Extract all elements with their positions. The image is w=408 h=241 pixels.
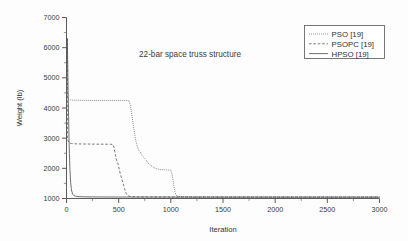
y-tick-label: 7000 [44,13,60,22]
x-tick-label: 3000 [372,205,388,214]
y-tick-label: 1000 [44,194,60,203]
x-axis-title: Iteration [209,225,236,234]
x-tick-label: 1500 [215,205,231,214]
y-tick-label: 5000 [44,73,60,82]
data-series-group [67,39,379,198]
chart-legend: PSO [19]PSOPC [19]HPSO [19] [305,26,385,59]
x-axis-tick-labels: 050010001500200025003000 [65,205,388,214]
legend-label-hpso: HPSO [19] [332,50,369,59]
x-tick-label: 500 [113,205,125,214]
chart-figure: 050010001500200025003000 100020003000400… [0,0,408,241]
chart-title: 22-bar space truss structure [139,50,241,59]
legend-label-psopc: PSOPC [19] [332,40,374,49]
y-axis-title: Weight (lb) [15,89,24,126]
y-tick-label: 4000 [44,104,60,113]
series-line-psopc [67,39,379,198]
y-tick-label: 2000 [44,164,60,173]
x-tick-label: 0 [65,205,69,214]
x-tick-label: 2000 [267,205,283,214]
y-tick-label: 6000 [44,43,60,52]
x-tick-label: 1000 [163,205,179,214]
legend-label-pso: PSO [19] [332,30,364,39]
line-chart: 050010001500200025003000 100020003000400… [0,0,408,241]
y-axis-tick-labels: 1000200030004000500060007000 [44,13,60,203]
x-tick-label: 2500 [319,205,335,214]
y-tick-label: 3000 [44,134,60,143]
x-axis-ticks [67,199,380,204]
series-line-hpso [67,39,379,198]
series-line-pso [67,39,379,198]
y-axis-ticks [62,18,67,199]
